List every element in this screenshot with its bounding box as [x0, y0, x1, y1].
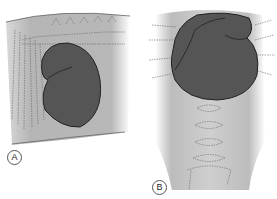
panel-b-ventrodorsal-view: B [137, 0, 277, 199]
panel-a-lateral-view: A [0, 0, 140, 199]
panel-label-a: A [7, 150, 22, 165]
stomach-organ [171, 13, 257, 100]
panel-label-b: B [152, 180, 167, 195]
